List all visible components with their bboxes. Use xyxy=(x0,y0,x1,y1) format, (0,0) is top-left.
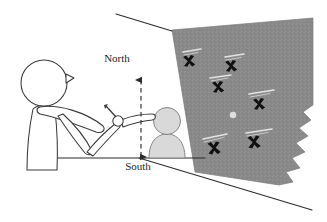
illustration-scene: North South xyxy=(0,0,327,222)
pointing-hand xyxy=(113,116,123,126)
standing-person-outline xyxy=(21,60,155,170)
poster-surface xyxy=(172,18,313,185)
seated-person-body xyxy=(149,134,185,158)
standing-person-far-arm xyxy=(121,114,155,127)
upper-perspective-line xyxy=(116,14,172,31)
wall-map-poster xyxy=(172,18,313,185)
north-label: North xyxy=(104,52,130,64)
south-label: South xyxy=(125,160,151,172)
standing-person-head xyxy=(21,60,67,106)
seated-person-head xyxy=(154,108,181,135)
map-dot xyxy=(230,112,236,118)
scene-svg: North South xyxy=(0,0,327,222)
standing-person-nose xyxy=(66,74,74,83)
pointing-index-finger xyxy=(106,106,116,117)
